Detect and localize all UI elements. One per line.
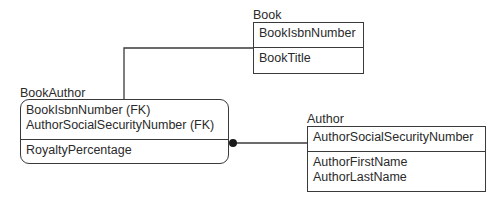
author-bookauthor-dot-icon [229, 139, 237, 147]
bookauthor-attr-royalty: RoyaltyPercentage [26, 143, 223, 158]
er-diagram-canvas: Book BookIsbnNumber BookTitle BookAuthor… [0, 0, 503, 201]
bookauthor-key-section: BookIsbnNumber (FK) AuthorSocialSecurity… [21, 100, 228, 140]
author-attr-firstname: AuthorFirstName [313, 155, 480, 170]
author-entity[interactable]: AuthorSocialSecurityNumber AuthorFirstNa… [307, 126, 486, 192]
author-attr-lastname: AuthorLastName [313, 170, 480, 185]
author-attribute-section: AuthorFirstName AuthorLastName [308, 152, 485, 187]
author-key-section: AuthorSocialSecurityNumber [308, 127, 485, 152]
book-attribute-section: BookTitle [254, 48, 363, 68]
book-entity[interactable]: BookIsbnNumber BookTitle [253, 22, 364, 74]
book-key-isbn: BookIsbnNumber [259, 26, 358, 41]
book-attr-title: BookTitle [259, 51, 358, 66]
bookauthor-entity[interactable]: BookIsbnNumber (FK) AuthorSocialSecurity… [20, 99, 229, 164]
book-entity-title: Book [253, 8, 282, 22]
book-bookauthor-relationship-line [124, 48, 253, 102]
bookauthor-attribute-section: RoyaltyPercentage [21, 140, 228, 160]
author-key-ssn: AuthorSocialSecurityNumber [313, 130, 480, 145]
author-entity-title: Author [307, 112, 344, 126]
bookauthor-key-ssn: AuthorSocialSecurityNumber (FK) [26, 118, 223, 133]
book-key-section: BookIsbnNumber [254, 23, 363, 48]
bookauthor-key-isbn: BookIsbnNumber (FK) [26, 103, 223, 118]
bookauthor-entity-title: BookAuthor [20, 86, 85, 100]
